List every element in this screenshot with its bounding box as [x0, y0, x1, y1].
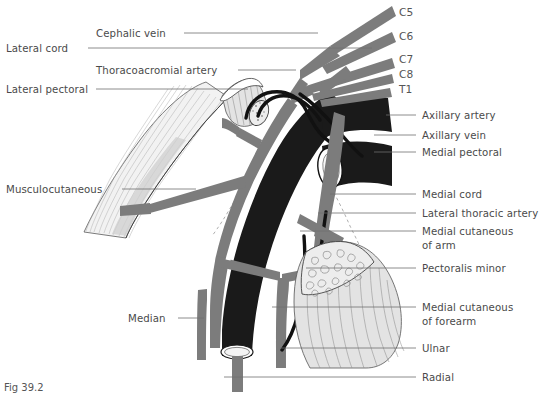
label-lateral-pectoral: Lateral pectoral — [6, 84, 88, 95]
label-medial-cutaneous-of-forearm-line1: Medial cutaneous — [422, 302, 513, 313]
anatomy-diagram-svg: Lateral cord Cephalic vein Thoracoacromi… — [0, 0, 551, 394]
nerve-root-labels-group: C5 C6 C7 C8 T1 — [398, 6, 413, 95]
label-c5: C5 — [399, 6, 413, 18]
label-lateral-cord: Lateral cord — [6, 43, 68, 54]
label-radial: Radial — [422, 372, 454, 383]
label-t1: T1 — [398, 83, 412, 95]
label-medial-cord: Medial cord — [422, 189, 482, 200]
anatomy-figure: Lateral cord Cephalic vein Thoracoacromi… — [0, 0, 551, 394]
axillary-vein-lumen-inner — [225, 347, 250, 356]
figure-caption: Fig 39.2 — [4, 382, 44, 393]
label-musculocutaneous: Musculocutaneous — [6, 184, 102, 195]
median-nerve-trunk — [276, 278, 289, 368]
label-axillary-vein: Axillary vein — [422, 130, 486, 141]
brachial-plexus-roots — [288, 6, 396, 107]
labels-right-group: Axillary artery Axillary vein Medial pec… — [422, 110, 538, 383]
lateral-pectoral-nerve — [236, 128, 262, 149]
descending-nerve-branch — [197, 289, 207, 360]
pectoralis-major-muscle — [84, 82, 228, 238]
radial-nerve — [232, 356, 243, 392]
label-thoracoacromial-artery: Thoracoacromial artery — [95, 65, 217, 76]
label-medial-pectoral: Medial pectoral — [422, 147, 502, 158]
pectoralis-minor-muscle — [294, 241, 404, 368]
label-cephalic-vein: Cephalic vein — [96, 28, 166, 39]
label-medial-cutaneous-of-arm-line2: of arm — [422, 240, 456, 251]
label-pectoralis-minor: Pectoralis minor — [422, 263, 506, 274]
label-medial-cutaneous-of-arm-line1: Medial cutaneous — [422, 226, 513, 237]
label-median: Median — [128, 313, 166, 324]
label-medial-cutaneous-of-forearm-line2: of forearm — [422, 316, 476, 327]
label-ulnar: Ulnar — [422, 343, 450, 354]
label-c6: C6 — [399, 30, 413, 42]
anatomy-artwork — [84, 6, 404, 392]
label-c8: C8 — [399, 68, 413, 80]
label-lateral-thoracic-artery: Lateral thoracic artery — [422, 208, 538, 219]
label-c7: C7 — [399, 53, 413, 65]
label-axillary-artery: Axillary artery — [422, 110, 496, 121]
